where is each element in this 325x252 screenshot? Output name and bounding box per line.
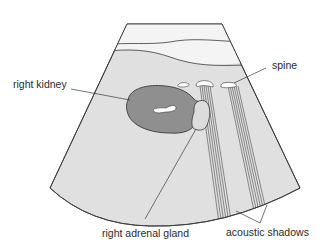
label-acoustic-shadows: acoustic shadows — [226, 227, 309, 238]
right-adrenal-gland-shape — [192, 100, 210, 130]
label-right-kidney: right kidney — [13, 79, 67, 90]
pointer-acoustic-shadow-right — [260, 205, 267, 223]
label-spine: spine — [272, 60, 297, 71]
spine-echo-3 — [221, 82, 236, 87]
label-right-adrenal-gland: right adrenal gland — [102, 228, 189, 239]
ultrasound-diagram — [0, 0, 325, 252]
pointer-acoustic-shadow-left — [236, 211, 260, 223]
